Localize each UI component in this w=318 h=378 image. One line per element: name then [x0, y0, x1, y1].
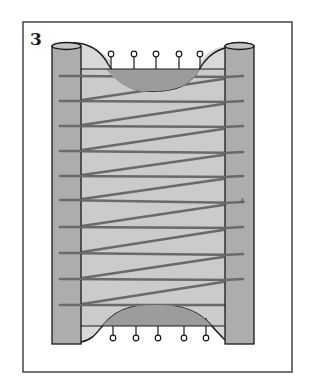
stitch-end-right [225, 101, 243, 102]
lacing-diagram: 3 A [0, 0, 318, 378]
stitch-horizontal [60, 227, 243, 228]
pin-head [153, 51, 159, 57]
stitch-end-right [225, 76, 243, 77]
pin-head [197, 51, 203, 57]
pin-head [133, 335, 139, 341]
pin-head [176, 51, 182, 57]
stitch-horizontal [60, 126, 243, 127]
left-post [52, 43, 81, 345]
post-top [52, 43, 81, 50]
pin-head [108, 51, 114, 57]
top-pins [108, 51, 203, 69]
pin-head [155, 335, 161, 341]
stitch-end-right [225, 176, 243, 177]
stitch-horizontal [60, 101, 243, 102]
stitch-end-right [225, 279, 243, 280]
post-top [225, 43, 254, 50]
stitch-end-right [225, 254, 243, 255]
top-flap-light [81, 46, 225, 69]
figure-number: 3 [30, 31, 42, 48]
right-post [225, 43, 254, 345]
post-body [225, 46, 254, 344]
stitch-end-right [225, 227, 243, 228]
pin-head [181, 335, 187, 341]
pin-head [131, 51, 137, 57]
stitch-horizontal [60, 176, 243, 177]
label-a: A [240, 198, 245, 205]
post-body [52, 46, 81, 344]
pin-head [110, 335, 116, 341]
pin-head [203, 335, 209, 341]
stitch-end-right [225, 152, 243, 153]
stitch-horizontal [60, 279, 243, 280]
stitch-end-right [225, 126, 243, 127]
diagram-canvas [0, 0, 318, 378]
